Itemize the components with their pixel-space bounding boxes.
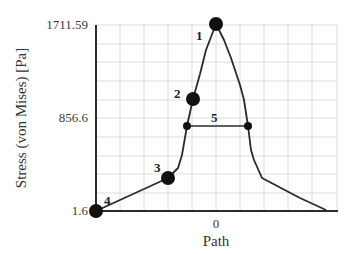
- marker-2-label: 2: [174, 86, 181, 101]
- stress-path-chart: 1711.59 856.6 1.6 0 Path Stress (von Mis…: [0, 0, 351, 254]
- half-max-right-marker: [244, 122, 252, 130]
- marker-1-label: 1: [196, 28, 203, 43]
- marker-3-label: 3: [154, 160, 161, 175]
- y-axis-title: Stress (von Mises) [Pa]: [13, 48, 30, 188]
- marker-2: [186, 92, 200, 106]
- x-axis-title: Path: [203, 233, 230, 249]
- marker-4-label: 4: [104, 193, 111, 208]
- y-tick-max: 1711.59: [46, 17, 88, 32]
- segment-5-label: 5: [211, 110, 218, 125]
- marker-1-peak: [209, 17, 223, 31]
- x-tick-zero: 0: [213, 216, 220, 231]
- marker-3: [161, 171, 175, 185]
- y-tick-mid: 856.6: [59, 110, 89, 125]
- marker-4: [89, 204, 103, 218]
- half-max-left-marker: [183, 122, 191, 130]
- y-tick-min: 1.6: [72, 203, 89, 218]
